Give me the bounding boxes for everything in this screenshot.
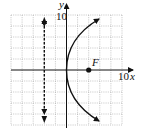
x-tick-label: 10 bbox=[118, 70, 130, 82]
parabola-curve-lower bbox=[67, 70, 100, 121]
y-tick-label: 10 bbox=[56, 10, 68, 22]
directrix-arrow-up-icon bbox=[42, 17, 48, 24]
directrix-arrow-down-icon bbox=[42, 116, 48, 123]
focus-label: F bbox=[91, 56, 99, 68]
y-axis-label: y bbox=[58, 0, 64, 10]
parabola-graph: F 10 x 10 y bbox=[0, 0, 144, 130]
x-axis-label: x bbox=[129, 70, 135, 82]
focus-point bbox=[86, 67, 91, 72]
